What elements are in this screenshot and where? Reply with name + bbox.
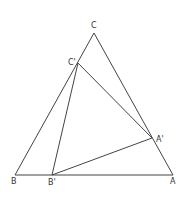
label-c: C (91, 22, 97, 30)
outer-triangle-abc (15, 33, 173, 175)
label-a: A (170, 178, 175, 186)
label-a-prime: A' (156, 136, 164, 144)
inner-triangle-a-b-c-prime (52, 63, 152, 175)
diagram: C C' A' B B' A (0, 0, 190, 198)
label-b-prime: B' (48, 179, 56, 187)
label-b: B (11, 178, 17, 186)
label-c-prime: C' (68, 59, 76, 67)
